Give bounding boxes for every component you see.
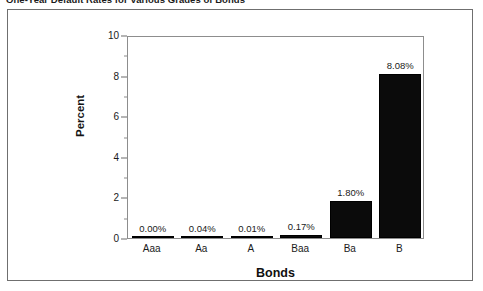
- bar[interactable]: [231, 236, 273, 238]
- bar[interactable]: [181, 236, 223, 238]
- y-tick-label: 10: [108, 31, 119, 41]
- bar-value-label: 0.17%: [288, 221, 315, 232]
- y-tick-label: 0: [113, 234, 119, 244]
- figure-root: One-Year Default Rates for Various Grade…: [0, 0, 483, 291]
- bar-value-label: 0.04%: [189, 223, 216, 234]
- bar-slot: 0.17%: [277, 37, 327, 238]
- figure-frame: Percent 0246810 0.00%0.04%0.01%0.17%1.80…: [7, 9, 473, 281]
- bar-value-label: 1.80%: [337, 187, 364, 198]
- bar[interactable]: [330, 201, 372, 238]
- x-axis-labels: AaaAaABaaBaB: [127, 243, 424, 259]
- y-tick-label: 6: [113, 112, 119, 122]
- x-tick-label: Ba: [344, 243, 356, 255]
- y-tick-label: 4: [113, 153, 119, 163]
- bar-value-label: 8.08%: [387, 60, 414, 71]
- bar-value-label: 0.00%: [139, 223, 166, 234]
- x-tick-label: Aaa: [143, 243, 161, 255]
- plot-area: 0.00%0.04%0.01%0.17%1.80%8.08%: [127, 36, 424, 239]
- x-tick-label: Aa: [195, 243, 207, 255]
- figure-caption: One-Year Default Rates for Various Grade…: [6, 0, 476, 7]
- y-axis: 0246810: [8, 36, 127, 239]
- x-tick-label: Baa: [291, 243, 309, 255]
- bar-slot: 8.08%: [376, 37, 426, 238]
- bar[interactable]: [132, 236, 174, 238]
- x-axis-title: Bonds: [127, 266, 424, 280]
- bar-slot: 1.80%: [326, 37, 376, 238]
- y-tick-label: 2: [113, 193, 119, 203]
- y-tick-label: 8: [113, 72, 119, 82]
- bar[interactable]: [280, 235, 322, 238]
- bar-slot: 0.01%: [227, 37, 277, 238]
- x-tick-label: A: [247, 243, 254, 255]
- bar-slot: 0.04%: [178, 37, 228, 238]
- bar-slot: 0.00%: [128, 37, 178, 238]
- bar[interactable]: [379, 74, 421, 238]
- bar-value-label: 0.01%: [238, 223, 265, 234]
- x-tick-label: B: [396, 243, 403, 255]
- bars-layer: 0.00%0.04%0.01%0.17%1.80%8.08%: [128, 37, 423, 238]
